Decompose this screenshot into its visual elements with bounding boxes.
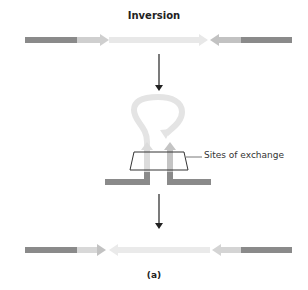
chromosome-after xyxy=(25,244,292,256)
down-arrow-icon xyxy=(155,194,163,229)
figure-caption: (a) xyxy=(0,270,308,280)
loop-structure xyxy=(105,97,211,182)
chromosome-before xyxy=(25,34,292,46)
inverted-segment xyxy=(118,247,210,253)
left-flank xyxy=(25,37,77,43)
sites-of-exchange-label: Sites of exchange xyxy=(204,150,284,160)
left-site-arrow-icon xyxy=(100,34,109,46)
right-flank xyxy=(241,37,292,43)
right-site-arrow-icon xyxy=(212,244,221,256)
exchange-sites-box xyxy=(130,152,188,170)
left-site-arrow-icon xyxy=(97,244,106,256)
inversion-diagram xyxy=(0,0,308,290)
inverted-segment xyxy=(109,37,201,43)
down-arrow-icon xyxy=(155,54,163,91)
right-site-arrow-icon xyxy=(210,34,219,46)
